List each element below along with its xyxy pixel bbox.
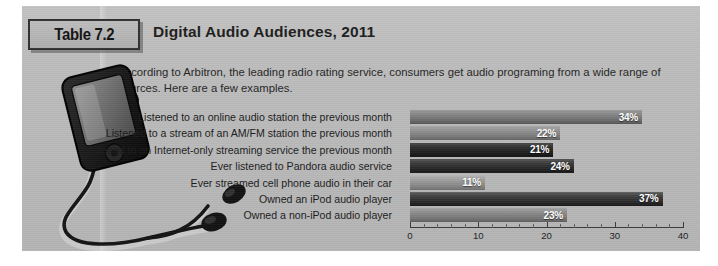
axis-tick-major <box>478 222 479 228</box>
bar: 23% <box>410 208 567 222</box>
bar-chart: Listened to an online audio station the … <box>22 110 700 250</box>
bar-value-label: 23% <box>544 210 563 221</box>
page-margin-top <box>0 0 718 6</box>
figure-panel: Table 7.2 Digital Audio Audiences, 2011 … <box>22 6 700 251</box>
bar-chart-row: Listened to an online audio station the … <box>22 110 700 124</box>
axis-tick-label: 20 <box>541 230 552 241</box>
bar-track: 24% <box>410 159 686 173</box>
figure-intro-text: According to Arbitron, the leading radio… <box>118 65 674 96</box>
bar-category-label: Owned a non-iPod audio player <box>22 208 398 222</box>
bar-chart-row: Ever listened to Pandora audio service24… <box>22 159 700 173</box>
axis-tick-label: 10 <box>473 230 484 241</box>
figure-title: Digital Audio Audiences, 2011 <box>153 23 375 41</box>
axis-tick-major <box>683 222 684 228</box>
bar: 11% <box>410 176 485 190</box>
page-margin-bottom <box>0 251 718 266</box>
axis-tick-minor <box>669 224 670 228</box>
axis-tick-minor <box>437 224 438 228</box>
axis-tick-minor <box>642 224 643 228</box>
table-number-badge: Table 7.2 <box>28 19 140 50</box>
bar-category-label: Ever streamed cell phone audio in their … <box>22 176 398 190</box>
axis-tick-minor <box>587 224 588 228</box>
bar-track: 23% <box>410 208 686 222</box>
figure-header: Table 7.2 Digital Audio Audiences, 2011 <box>22 6 700 54</box>
bar-chart-row: Ever streamed cell phone audio in their … <box>22 176 700 190</box>
page-margin-right <box>700 0 718 266</box>
bar-chart-row: Listened to a stream of an AM/FM station… <box>22 126 700 140</box>
axis-tick-minor <box>628 224 629 228</box>
bar-track: 11% <box>410 176 686 190</box>
bar-chart-row: Listened to an Internet-only streaming s… <box>22 143 700 157</box>
bar-value-label: 34% <box>619 112 638 123</box>
bar-value-label: 24% <box>550 161 569 172</box>
page-margin-left <box>0 0 22 266</box>
figure-page: Table 7.2 Digital Audio Audiences, 2011 … <box>0 0 718 266</box>
bar-chart-row: Owned a non-iPod audio player23% <box>22 208 700 222</box>
bar-category-label: Ever listened to Pandora audio service <box>22 159 398 173</box>
bar-category-label: Listened to an online audio station the … <box>22 110 398 124</box>
bar-track: 37% <box>410 192 686 206</box>
bar-category-label: Owned an iPod audio player <box>22 192 398 206</box>
bar: 22% <box>410 126 560 140</box>
bar: 21% <box>410 143 553 157</box>
bar-value-label: 37% <box>639 193 658 204</box>
axis-tick-minor <box>451 224 452 228</box>
axis-tick-label: 30 <box>609 230 620 241</box>
axis-tick-minor <box>465 224 466 228</box>
axis-tick-minor <box>519 224 520 228</box>
axis-tick-minor <box>424 224 425 228</box>
bar-category-label: Listened to a stream of an AM/FM station… <box>22 126 398 140</box>
table-number-label: Table 7.2 <box>54 26 114 44</box>
chart-x-axis: 010203040 <box>410 227 686 251</box>
bar: 34% <box>410 110 642 124</box>
axis-tick-minor <box>492 224 493 228</box>
axis-tick-label: 40 <box>678 230 689 241</box>
bar-chart-rows: Listened to an online audio station the … <box>22 110 700 225</box>
bar-category-label: Listened to an Internet-only streaming s… <box>22 143 398 157</box>
bar-track: 34% <box>410 110 686 124</box>
bar-value-label: 22% <box>537 128 556 139</box>
bar-track: 21% <box>410 143 686 157</box>
bar-chart-row: Owned an iPod audio player37% <box>22 192 700 206</box>
bar: 24% <box>410 159 574 173</box>
axis-tick-major <box>615 222 616 228</box>
axis-tick-minor <box>601 224 602 228</box>
axis-tick-major <box>547 222 548 228</box>
axis-tick-label: 0 <box>407 230 412 241</box>
axis-tick-minor <box>533 224 534 228</box>
axis-tick-minor <box>560 224 561 228</box>
axis-tick-minor <box>574 224 575 228</box>
bar-value-label: 11% <box>462 177 481 188</box>
bar-value-label: 21% <box>530 144 549 155</box>
axis-tick-major <box>410 222 411 228</box>
bar: 37% <box>410 192 663 206</box>
axis-tick-minor <box>506 224 507 228</box>
bar-track: 22% <box>410 126 686 140</box>
axis-tick-minor <box>656 224 657 228</box>
